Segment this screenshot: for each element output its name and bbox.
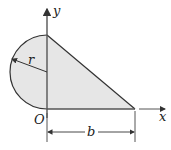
base-label: b — [87, 124, 95, 139]
shaded-area — [10, 35, 135, 109]
x-axis-label: x — [159, 109, 167, 124]
diagram-canvas: y x O r b — [0, 0, 171, 150]
origin-label: O — [34, 112, 45, 127]
radius-label: r — [28, 52, 35, 67]
y-axis-label: y — [52, 3, 61, 18]
